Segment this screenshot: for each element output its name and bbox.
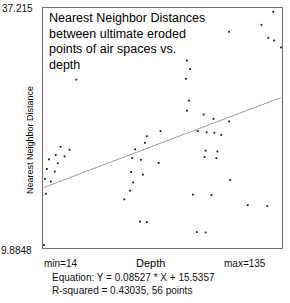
data-point — [50, 181, 52, 183]
data-point — [129, 190, 131, 192]
data-point — [132, 182, 134, 184]
data-point — [60, 146, 62, 148]
data-point — [69, 149, 71, 151]
data-point — [134, 148, 136, 150]
data-point — [211, 194, 213, 196]
data-point — [186, 60, 188, 62]
data-point — [139, 221, 141, 223]
data-point — [272, 11, 274, 13]
data-point — [185, 78, 187, 80]
data-point — [220, 134, 222, 136]
data-point — [205, 150, 207, 152]
data-point — [247, 204, 249, 206]
regression-line — [44, 98, 281, 188]
data-point — [142, 174, 144, 176]
data-point — [267, 37, 269, 39]
y-axis-max-label: 37.215 — [2, 3, 33, 14]
data-point — [186, 110, 188, 112]
data-point — [192, 194, 194, 196]
data-point — [54, 171, 56, 173]
data-point — [196, 231, 198, 233]
data-point — [203, 114, 205, 116]
data-point — [123, 199, 125, 201]
data-point — [43, 244, 45, 246]
data-point — [189, 68, 191, 70]
data-point — [46, 168, 48, 170]
data-point — [229, 179, 231, 181]
data-point — [280, 47, 282, 49]
data-point — [75, 79, 77, 81]
scatter-plot-figure: 37.215 9.8848 min=14 max=135 Depth Neare… — [0, 0, 290, 303]
x-axis-title: Depth — [136, 257, 165, 269]
y-axis-min-label: 9.8848 — [1, 245, 32, 256]
data-point — [266, 205, 268, 207]
data-point — [55, 154, 57, 156]
data-point — [160, 130, 162, 132]
y-axis-title: Nearest Neighbor Distance — [25, 70, 35, 210]
data-point — [228, 31, 230, 33]
data-point — [140, 159, 142, 161]
data-point — [131, 157, 133, 159]
data-point — [273, 40, 275, 42]
data-point — [228, 121, 230, 123]
data-point — [197, 130, 199, 132]
plot-area: Nearest Neighbor Distances between ultim… — [42, 7, 283, 249]
data-point — [146, 221, 148, 223]
data-point — [44, 178, 46, 180]
data-point — [144, 142, 146, 144]
plot-canvas — [43, 8, 282, 248]
data-point — [130, 171, 132, 173]
regression-equation-text: Equation: Y = 0.08527 * X + 15.5357 — [52, 272, 215, 283]
data-point — [216, 151, 218, 153]
data-point — [206, 131, 208, 133]
data-point — [215, 157, 217, 159]
data-point — [57, 162, 59, 164]
x-axis-max-label: max=135 — [224, 258, 265, 269]
data-point — [146, 135, 148, 137]
x-axis-min-label: min=14 — [44, 258, 77, 269]
data-point — [205, 232, 207, 234]
data-point — [213, 118, 215, 120]
data-point — [188, 100, 190, 102]
data-point — [158, 162, 160, 164]
data-point — [204, 156, 206, 158]
data-point — [261, 24, 263, 26]
data-point — [64, 155, 66, 157]
data-point — [45, 193, 47, 195]
rsquared-text: R-squared = 0.43035, 56 points — [52, 285, 192, 296]
data-point — [214, 132, 216, 134]
data-point — [48, 158, 50, 160]
